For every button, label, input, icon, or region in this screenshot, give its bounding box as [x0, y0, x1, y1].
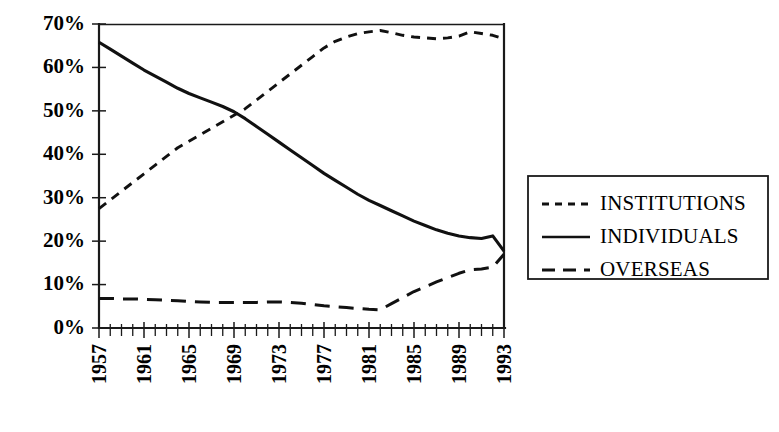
y-tick-label: 60% [43, 54, 85, 78]
y-tick-label: 20% [43, 228, 85, 252]
chart-legend: INSTITUTIONSINDIVIDUALSOVERSEAS [528, 176, 768, 281]
x-tick-label: 1973 [268, 344, 290, 384]
x-tick-label: 1993 [493, 344, 515, 384]
y-tick-label: 10% [43, 271, 85, 295]
x-tick-label: 1957 [88, 344, 110, 384]
x-tick-label: 1965 [178, 344, 200, 384]
legend-label-institutions: INSTITUTIONS [600, 191, 746, 215]
x-tick-label: 1977 [313, 344, 335, 384]
x-tick-label: 1961 [133, 344, 155, 384]
x-tick-label: 1969 [223, 344, 245, 384]
x-tick-label: 1981 [358, 344, 380, 384]
y-tick-label: 50% [43, 98, 85, 122]
y-tick-label: 0% [54, 315, 86, 339]
y-tick-label: 40% [43, 141, 85, 165]
x-tick-label: 1985 [403, 344, 425, 384]
line-chart: 0%10%20%30%40%50%60%70% 1957196119651969… [0, 0, 779, 432]
y-tick-label: 30% [43, 185, 85, 209]
x-tick-label: 1989 [448, 344, 470, 384]
y-tick-label: 70% [43, 11, 85, 35]
legend-label-individuals: INDIVIDUALS [600, 224, 739, 248]
legend-label-overseas: OVERSEAS [600, 257, 710, 281]
chart-container: 0%10%20%30%40%50%60%70% 1957196119651969… [0, 0, 779, 432]
